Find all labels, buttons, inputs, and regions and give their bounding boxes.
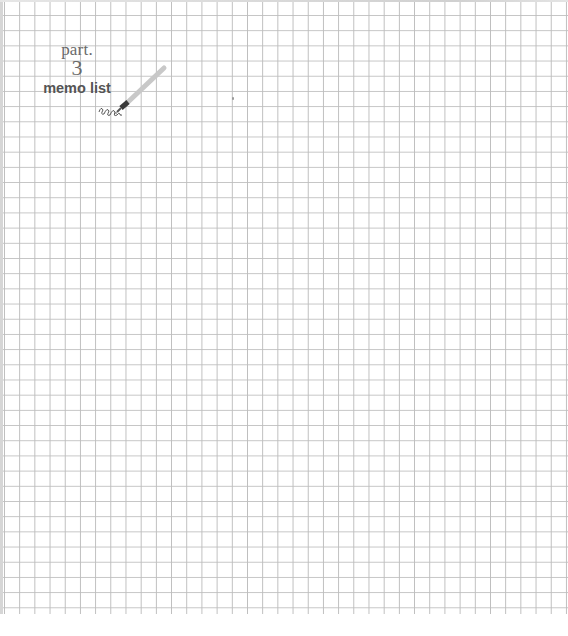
paper-speck	[232, 97, 234, 100]
pencil-icon	[0, 0, 568, 636]
